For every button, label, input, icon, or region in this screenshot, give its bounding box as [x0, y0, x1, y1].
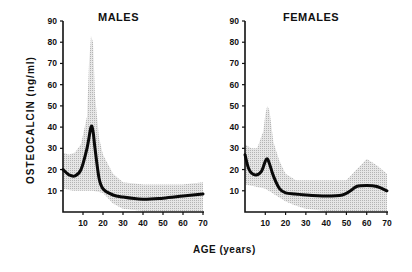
x-tick-label: 60	[178, 218, 188, 228]
y-tick-label: 10	[230, 186, 240, 196]
y-tick-label: 80	[230, 37, 240, 47]
x-tick-label: 40	[321, 218, 331, 228]
y-tick-label: 70	[48, 58, 58, 68]
x-tick-label: 30	[301, 218, 311, 228]
x-tick-label: 20	[98, 218, 108, 228]
y-tick-label: 60	[48, 80, 58, 90]
chart-canvas: 10203040506070809010203040506070 1020304…	[0, 0, 412, 272]
y-tick-label: 90	[48, 16, 58, 26]
y-tick-label: 50	[230, 101, 240, 111]
y-tick-label: 90	[230, 16, 240, 26]
females-panel: 10203040506070809010203040506070	[230, 16, 392, 228]
x-tick-label: 20	[281, 218, 291, 228]
y-tick-label: 30	[230, 143, 240, 153]
x-tick-label: 70	[382, 218, 392, 228]
males-panel: 10203040506070809010203040506070	[48, 16, 208, 228]
y-tick-label: 80	[48, 37, 58, 47]
x-tick-label: 60	[362, 218, 372, 228]
x-tick-label: 50	[158, 218, 168, 228]
x-tick-label: 70	[198, 218, 208, 228]
y-tick-label: 60	[230, 80, 240, 90]
y-tick-label: 50	[48, 101, 58, 111]
x-tick-label: 30	[118, 218, 128, 228]
males-title: MALES	[98, 11, 139, 23]
x-tick-label: 10	[78, 218, 88, 228]
y-tick-label: 40	[230, 122, 240, 132]
y-tick-label: 40	[48, 122, 58, 132]
y-tick-label: 20	[48, 165, 58, 175]
y-tick-label: 70	[230, 58, 240, 68]
range-band	[63, 36, 203, 211]
y-tick-label: 20	[230, 165, 240, 175]
x-tick-label: 10	[261, 218, 271, 228]
x-tick-label: 40	[138, 218, 148, 228]
x-axis-label: AGE (years)	[193, 244, 256, 255]
x-tick-label: 50	[342, 218, 352, 228]
y-axis-label: OSTEOCALCIN (ng/ml)	[25, 56, 36, 184]
y-tick-label: 30	[48, 143, 58, 153]
y-tick-label: 10	[48, 186, 58, 196]
females-title: FEMALES	[283, 11, 339, 23]
